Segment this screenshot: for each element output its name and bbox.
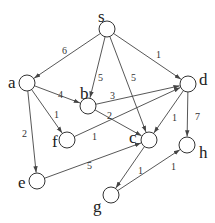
edge-a-e [28, 91, 36, 173]
node-g: g [93, 187, 119, 216]
edge-weight-d-h: 7 [195, 111, 200, 122]
edge-weight-a-f: 1 [54, 109, 59, 120]
arrow-line [34, 33, 100, 78]
edge-weight-c-g: 1 [138, 165, 143, 176]
arrow-line [28, 91, 36, 173]
edge-weight-b-d: 3 [110, 90, 115, 101]
edge-d-h [187, 92, 188, 137]
edge-weight-s-c: 5 [131, 72, 136, 83]
edge-weight-d-c: 1 [172, 112, 177, 123]
edge-s-a [34, 33, 100, 78]
edge-weight-a-b: 4 [58, 89, 63, 100]
node-label-b: b [80, 84, 89, 103]
edge-b-d [96, 86, 180, 104]
edge-s-b [90, 37, 105, 98]
edge-labels-layer: 655141232117511 [22, 45, 200, 176]
node-d: d [180, 70, 208, 92]
node-e: e [18, 173, 45, 192]
node-label-h: h [199, 143, 208, 162]
edge-weight-s-d: 1 [156, 49, 161, 60]
edge-d-c [154, 91, 184, 133]
node-s: s [98, 7, 115, 37]
node-circle [29, 173, 45, 189]
node-label-d: d [199, 70, 208, 89]
arrow-line [96, 86, 180, 104]
edge-weight-s-b: 5 [98, 72, 103, 83]
node-circle [141, 132, 157, 148]
weighted-directed-graph: 655141232117511 sabdfcheg [0, 0, 215, 223]
node-c: c [129, 128, 157, 148]
node-label-s: s [98, 7, 105, 26]
arrow-line [154, 91, 184, 133]
node-a: a [8, 73, 35, 92]
edge-weight-b-c: 2 [107, 110, 112, 121]
node-label-e: e [18, 173, 26, 192]
node-label-c: c [129, 128, 137, 147]
node-b: b [80, 84, 96, 114]
node-circle [179, 137, 195, 153]
edge-weight-g-h: 1 [171, 161, 176, 172]
arrow-line [90, 37, 105, 98]
edge-weight-a-e: 2 [22, 128, 27, 139]
node-circle [180, 76, 196, 92]
node-label-g: g [93, 197, 102, 216]
node-circle [103, 187, 119, 203]
node-circle [19, 75, 35, 91]
node-label-a: a [8, 73, 16, 92]
node-circle [59, 132, 75, 148]
edge-weight-e-c: 5 [87, 160, 92, 171]
node-f: f [52, 132, 75, 151]
edge-weight-f-d: 1 [92, 131, 97, 142]
arrow-line [187, 92, 188, 137]
node-h: h [179, 137, 208, 162]
node-label-f: f [52, 132, 58, 151]
edge-weight-s-a: 6 [62, 45, 67, 56]
